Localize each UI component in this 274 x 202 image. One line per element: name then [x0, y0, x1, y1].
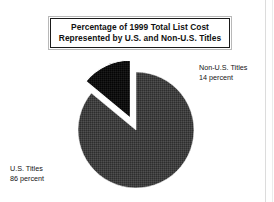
pie-label-us-value: 86 percent — [10, 174, 44, 184]
pie-label-us-name: U.S. Titles — [10, 164, 44, 174]
pie-label-non-us-name: Non-U.S. Titles — [199, 63, 247, 73]
pie-label-non-us-value: 14 percent — [199, 73, 247, 83]
pie-label-non-us-titles: Non-U.S. Titles 14 percent — [199, 63, 247, 83]
chart-canvas: Percentage of 1999 Total List Cost Repre… — [0, 0, 274, 202]
pie-label-us-titles: U.S. Titles 86 percent — [10, 164, 44, 184]
